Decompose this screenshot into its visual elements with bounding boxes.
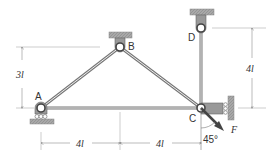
dim-bottom bbox=[41, 112, 201, 150]
pin-d bbox=[197, 24, 205, 32]
angle-label: 45° bbox=[203, 134, 218, 145]
dim-bottom-left-label: 4l bbox=[76, 138, 84, 149]
label-d: D bbox=[188, 32, 195, 43]
angle-arc bbox=[201, 122, 215, 128]
force-label: F bbox=[230, 124, 238, 135]
label-b: B bbox=[128, 41, 135, 52]
dim-right-label: 4l bbox=[246, 63, 254, 74]
label-a: A bbox=[35, 91, 42, 102]
label-c: C bbox=[189, 113, 196, 124]
support-c bbox=[201, 96, 234, 120]
pin-a bbox=[37, 104, 45, 112]
dim-left-label: 3l bbox=[15, 69, 24, 80]
dim-right bbox=[212, 28, 266, 108]
truss-diagram: A B C D F 45° 3l 4l 4l 4l bbox=[0, 0, 275, 158]
dim-bottom-right-label: 4l bbox=[156, 138, 164, 149]
dim-left bbox=[16, 47, 100, 108]
pin-b bbox=[116, 43, 124, 51]
